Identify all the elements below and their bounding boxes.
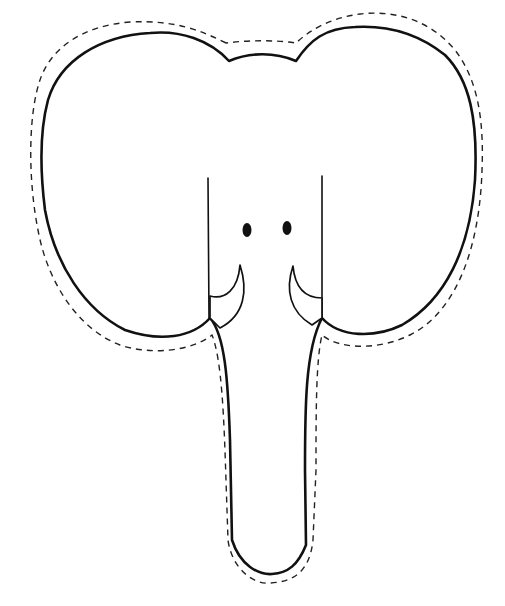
- right-eye: [283, 221, 292, 235]
- head-outline: [42, 27, 476, 574]
- left-trunk-edge: [208, 178, 209, 318]
- elephant-cutout-drawing: [0, 0, 505, 606]
- left-eye: [243, 223, 252, 237]
